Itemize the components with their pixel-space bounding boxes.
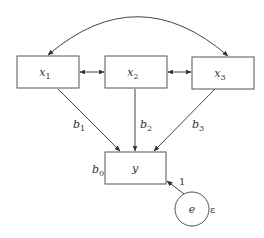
covariance-arc-x1-x3 — [48, 17, 228, 56]
path-diagram: x1 x2 x3 y e b1 b2 b3 b0 1 ε — [0, 0, 264, 238]
svg-text:e: e — [189, 203, 196, 216]
path-x1-y — [58, 89, 120, 151]
label-epsilon-variance: ε — [210, 204, 215, 215]
path-x3-y — [154, 89, 215, 151]
label-b3: b3 — [192, 118, 204, 133]
label-b1: b1 — [73, 118, 85, 133]
node-x1: x1 — [17, 56, 79, 88]
label-b0-intercept: b0 — [92, 163, 104, 178]
node-y: y — [105, 152, 166, 184]
svg-text:y: y — [131, 162, 139, 175]
label-error-path-1: 1 — [179, 176, 185, 187]
label-b2: b2 — [140, 118, 152, 133]
node-e: e — [175, 192, 209, 226]
node-x3: x3 — [192, 57, 254, 89]
node-x2: x2 — [105, 56, 167, 88]
